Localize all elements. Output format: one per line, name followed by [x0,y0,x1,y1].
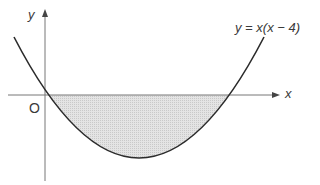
y-axis-arrow-icon [42,9,48,17]
curve-equation-label: y = x(x − 4) [235,21,300,34]
x-axis-label: x [285,87,292,100]
y-axis-label: y [28,8,35,21]
x-axis-arrow-icon [272,92,280,98]
origin-label: O [29,101,40,115]
